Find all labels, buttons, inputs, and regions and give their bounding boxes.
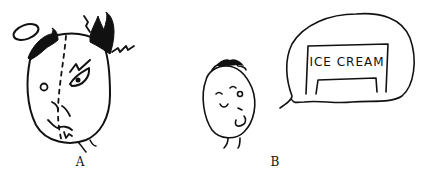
sign-inner-frame (316, 78, 377, 94)
head-outline-b (203, 66, 255, 138)
sign-frame (306, 44, 388, 94)
figure-label-b: B (271, 155, 280, 169)
open-eye-b (238, 92, 243, 97)
legs-b (224, 138, 240, 148)
illustration-canvas: A B ICE CREAM (0, 0, 426, 178)
angel-eye (41, 84, 48, 91)
eyebrow-b (230, 87, 236, 89)
figure-label-a: A (75, 155, 85, 169)
devil-pupil (77, 79, 80, 82)
hair-a (28, 12, 114, 60)
hat-b (216, 59, 244, 66)
closed-eye-b (216, 93, 222, 95)
smile-b (220, 104, 228, 107)
lightning-bolt-top (84, 16, 90, 32)
tongue-b (235, 116, 245, 126)
halo-icon (11, 21, 40, 43)
sign-text: ICE CREAM (309, 55, 384, 69)
devil-horns (90, 12, 114, 54)
lightning-bolt-side (112, 46, 134, 52)
figure-a (11, 16, 134, 152)
hair-left (28, 28, 58, 60)
nose (52, 102, 70, 116)
figure-b (203, 62, 255, 148)
nose-b (238, 108, 242, 110)
